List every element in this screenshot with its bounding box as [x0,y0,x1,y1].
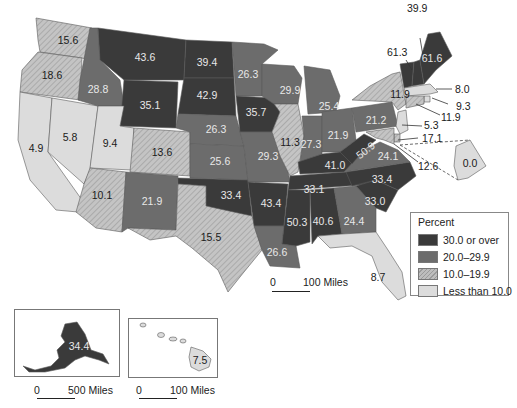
value-ia: 35.7 [246,106,267,118]
legend-swatch-dark [418,234,438,246]
value-ga: 24.4 [344,215,365,227]
scale-label: 100 Miles [170,384,215,396]
scale-bar-hawaii: 0 100 Miles [136,384,226,404]
value-nm: 21.9 [142,195,163,207]
alaska-inset: 34.4 [14,309,120,377]
value-nd: 39.4 [197,56,218,68]
value-co: 13.6 [152,146,173,158]
value-la: 26.6 [267,246,288,258]
legend-item-10-19: 10.0–19.9 [415,265,504,282]
value-mn: 26.3 [238,68,259,80]
value-vt: 61.3 [387,46,408,58]
legend-item-30-plus: 30.0 or over [415,231,504,248]
value-tx: 15.5 [201,231,222,243]
value-hi: 7.5 [193,354,208,366]
legend-swatch-hatched [418,268,438,280]
value-mi: 25.4 [319,100,340,112]
value-in: 27.3 [301,138,322,150]
legend: Percent 30.0 or over 20.0–29.9 10.0–19.9… [410,212,509,296]
scale-zero: 0 [34,384,40,396]
scale-zero: 0 [136,384,142,396]
legend-label: Less than 10.0 [443,285,512,297]
value-mt: 43.6 [135,51,156,63]
value-sd: 42.9 [197,89,218,101]
value-az: 10.1 [92,189,113,201]
hawaii-inset: 7.5 [128,318,218,378]
value-oh: 21.9 [328,129,349,141]
legend-item-under-10: Less than 10.0 [415,282,504,299]
scale-label: 100 Miles [303,276,348,288]
scale-zero: 0 [270,276,276,288]
hawaii-map: 7.5 [129,319,217,377]
value-wa: 15.6 [58,34,79,46]
scale-bar-main: 0 100 Miles [270,276,370,296]
value-il: 11.3 [280,136,300,148]
value-me: 61.6 [422,52,443,64]
value-fl: 8.7 [371,271,386,283]
value-ca: 4.9 [29,142,44,154]
scale-bar-alaska: 0 500 Miles [34,384,124,404]
value-tn: 33.1 [304,183,325,195]
value-pa: 21.2 [366,114,387,126]
value-mo: 29.3 [258,150,279,162]
value-ny: 11.9 [390,88,410,100]
value-md: 12.6 [418,160,439,172]
legend-label: 20.0–29.9 [443,251,490,263]
value-de: 17.1 [422,132,443,144]
state-de [394,134,400,142]
state-ri [424,96,430,102]
legend-swatch-medium [418,251,438,263]
legend-label: 10.0–19.9 [443,268,490,280]
state-nj [396,110,408,134]
value-id: 28.8 [88,83,109,95]
value-dc: 0.0 [463,157,478,169]
value-ok: 33.4 [221,189,242,201]
value-ks: 25.6 [210,155,231,167]
legend-item-20-29: 20.0–29.9 [415,248,504,265]
value-or: 18.6 [42,69,63,81]
legend-swatch-light [418,285,438,297]
value-ak: 34.4 [69,340,90,352]
scale-label: 500 Miles [68,384,113,396]
value-ne: 26.3 [206,123,227,135]
value-sc: 33.0 [365,195,386,207]
value-ms: 50.3 [287,216,308,228]
value-nh: 39.9 [407,2,428,14]
value-wi: 29.9 [280,84,301,96]
value-ar: 43.4 [261,197,282,209]
value-nc: 33.4 [372,173,393,185]
value-ma: 8.0 [455,83,470,95]
value-ct: 11.9 [441,111,461,123]
value-va: 24.1 [378,150,399,162]
value-nj: 5.3 [424,119,439,131]
value-wy: 35.1 [140,99,161,111]
value-nv: 5.8 [63,131,78,143]
value-ky: 41.0 [325,159,346,171]
legend-label: 30.0 or over [443,234,499,246]
value-ut: 9.4 [103,137,118,149]
legend-title: Percent [418,216,504,228]
value-al: 40.6 [313,215,334,227]
alaska-map: 34.4 [15,310,119,376]
